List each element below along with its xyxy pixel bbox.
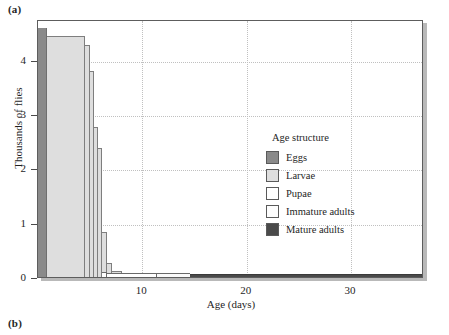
y-tick-label: 4 [0,55,26,66]
y-axis-title: Thousands of flies [12,48,24,208]
legend-item-label: Mature adults [286,224,344,235]
y-tick-mark [31,278,37,279]
legend: Age structure EggsLarvaePupaeImmature ad… [266,132,416,238]
legend-title: Age structure [272,132,416,143]
area-segment-larvae [47,36,86,278]
legend-item-mature-adults: Mature adults [266,220,416,238]
legend-item-pupae: Pupae [266,184,416,202]
legend-item-larvae: Larvae [266,166,416,184]
legend-item-label: Immature adults [286,206,355,217]
y-tick-label: 1 [0,218,26,229]
y-tick-label: 2 [0,163,26,174]
x-tick-label: 20 [226,284,266,296]
legend-rows: EggsLarvaePupaeImmature adultsMature adu… [266,148,416,238]
area-segment-mature-adults [190,274,231,278]
legend-swatch-icon [266,169,279,182]
y-tick-label: 0 [0,272,26,283]
figure-panel-a: Thousands of flies Age (days) 01234 1020… [0,14,449,314]
legend-swatch-icon [266,151,279,164]
legend-item-label: Pupae [286,188,312,199]
area-segment-immature-adults [157,273,190,278]
x-tick-label: 10 [121,284,161,296]
legend-swatch-icon [266,223,279,236]
gridline-horizontal [38,116,422,117]
gridline-horizontal [38,62,422,63]
gridline-vertical [142,21,143,277]
legend-item-label: Larvae [286,170,315,181]
legend-item-eggs: Eggs [266,148,416,166]
x-axis-title: Age (days) [38,298,424,310]
legend-item-label: Eggs [286,152,307,163]
x-tick-label: 30 [330,284,370,296]
area-segment-eggs [38,28,47,278]
legend-swatch-icon [266,205,279,218]
legend-item-immature-adults: Immature adults [266,202,416,220]
legend-swatch-icon [266,187,279,200]
gridline-vertical [247,21,248,277]
area-segment-mature-adults [231,274,423,278]
y-tick-label: 3 [0,109,26,120]
area-segment-pupae [107,273,157,278]
panel-label-b: (b) [8,317,22,329]
